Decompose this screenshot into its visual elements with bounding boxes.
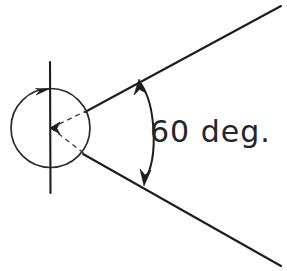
center-arrow-icon (50, 122, 60, 134)
arc-arrowhead-upper-icon (134, 79, 146, 95)
angle-label: 60 deg. (150, 114, 271, 149)
upper-ray (85, 6, 281, 112)
technical-drawing-canvas: 60 deg. (0, 0, 287, 271)
circle-direction-arrow-icon (36, 89, 50, 96)
lower-ray (83, 154, 281, 266)
diagram-svg: 60 deg. (0, 0, 287, 271)
arc-arrowhead-lower-icon (140, 169, 151, 186)
